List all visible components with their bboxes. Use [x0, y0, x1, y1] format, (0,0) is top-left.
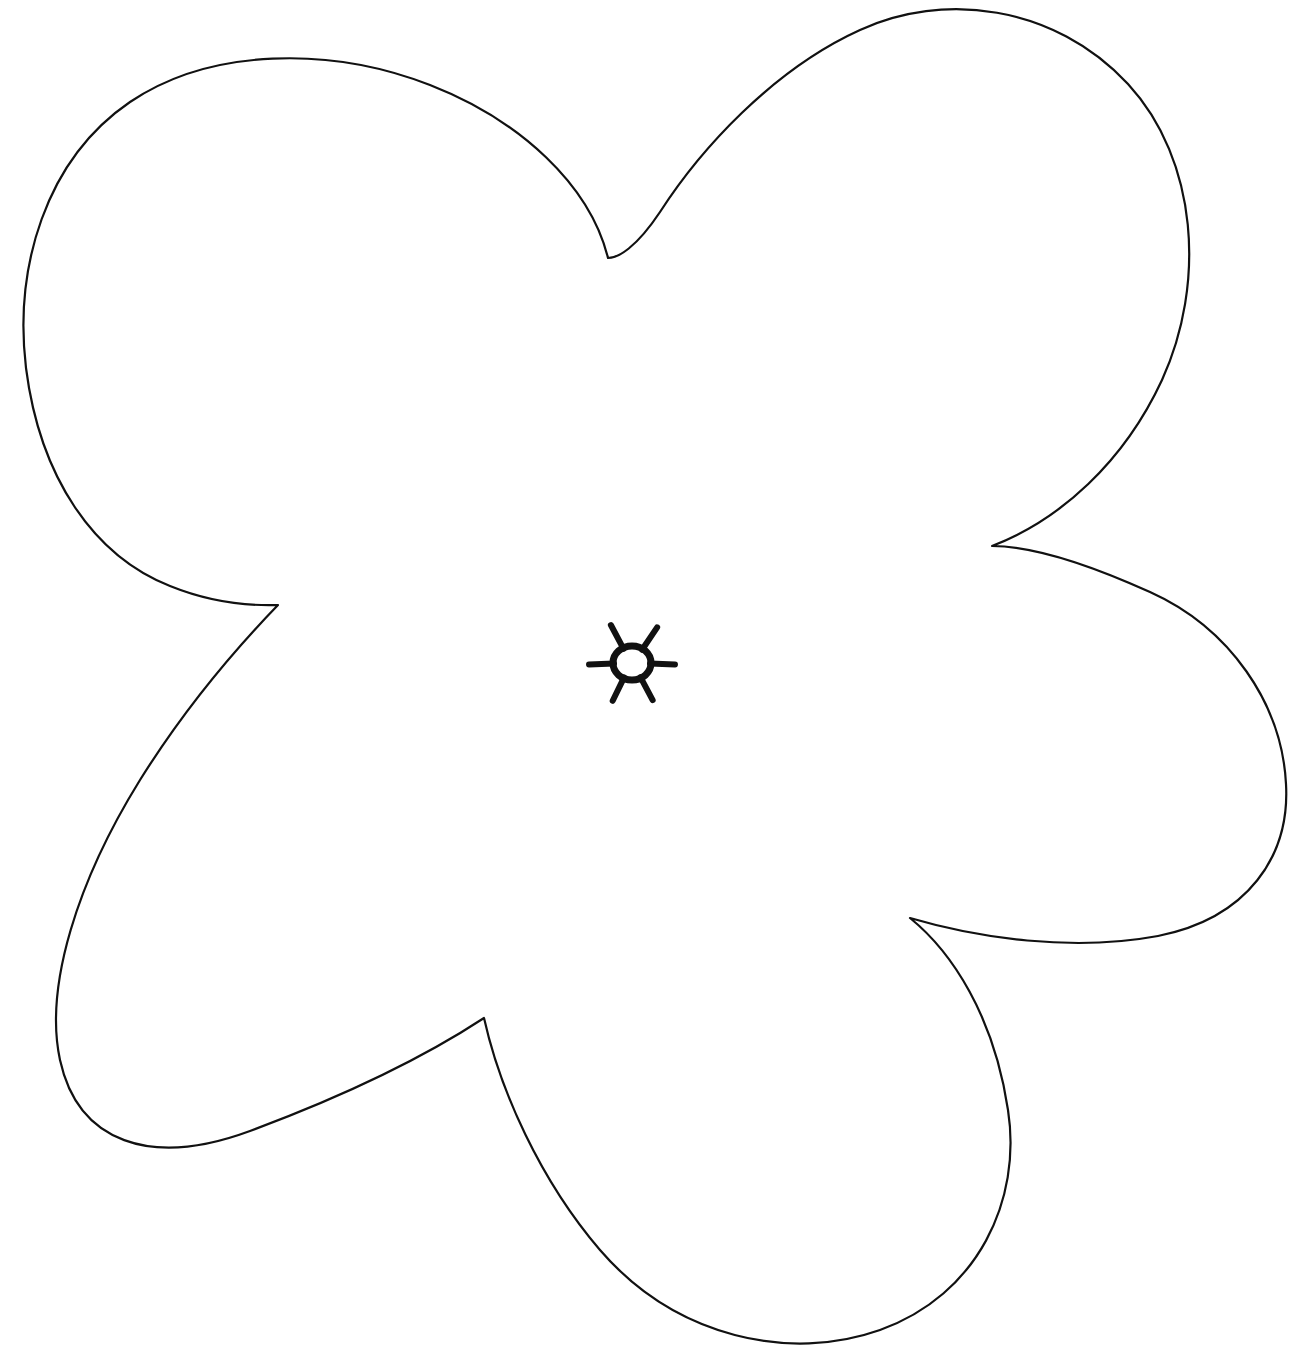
drawing-canvas [0, 0, 1291, 1372]
flower-illustration [0, 0, 1291, 1372]
